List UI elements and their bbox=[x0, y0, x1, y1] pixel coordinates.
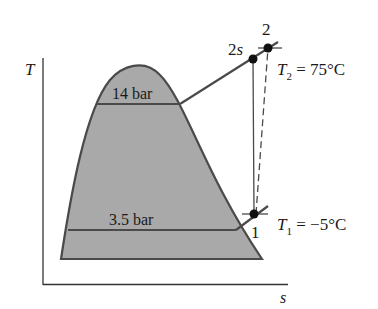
state-point-2 bbox=[264, 44, 273, 53]
annotation-t1: T1 = −5°C bbox=[277, 215, 346, 237]
isobar-label-14bar: 14 bar bbox=[112, 85, 153, 102]
y-axis-label: T bbox=[25, 60, 36, 79]
isobar-label-3.5bar: 3.5 bar bbox=[109, 211, 154, 228]
state-label-2s: 2s bbox=[228, 40, 244, 59]
state-point-1 bbox=[250, 210, 259, 219]
process-1-2s bbox=[253, 59, 254, 214]
state-label-2: 2 bbox=[262, 20, 271, 39]
ts-diagram: T s 14 bar 3.5 bar 2s 2 1 T2 = 75°C T1 =… bbox=[0, 0, 378, 309]
annotation-t2: T2 = 75°C bbox=[277, 60, 345, 82]
state-label-1: 1 bbox=[251, 223, 260, 242]
x-axis-label: s bbox=[280, 289, 286, 306]
state-point-2s bbox=[249, 55, 258, 64]
process-1-2 bbox=[256, 48, 268, 214]
